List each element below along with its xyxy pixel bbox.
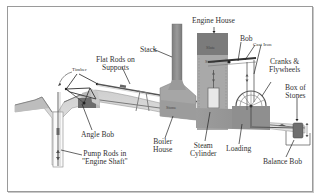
label-slate: Slate [206, 44, 215, 52]
label-stone-boiler-house: Stone [166, 104, 176, 112]
stack [168, 24, 186, 90]
label-balance-bob: Balance Bob [263, 158, 302, 166]
label-stack: Stack [140, 46, 157, 54]
label-boiler-line2: House [153, 146, 172, 154]
label-box-of-stones: Box of Stones [285, 84, 306, 100]
label-box-line2: Stones [285, 92, 306, 100]
label-stone-engine-house: Stone [205, 58, 215, 66]
engine-shaft [53, 92, 63, 167]
label-loading: Loading [226, 145, 251, 153]
label-cranks-flywheels: Cranks & Flywheels [269, 58, 300, 74]
diagram-illustration [0, 0, 319, 196]
label-flat-rods: Flat Rods on Supports [96, 56, 135, 72]
label-cranks-line2: Flywheels [269, 66, 300, 74]
label-steam-cylinder: Steam Cylinder [190, 142, 217, 158]
label-flat-rods-line2: Supports [96, 64, 135, 72]
label-steam-line2: Cylinder [190, 150, 217, 158]
label-angle-bob: Angle Bob [81, 131, 114, 139]
label-cast-iron: Cast Iron [253, 42, 271, 48]
beam-engine-diagram: Engine House Stack Flat Rods on Supports… [0, 0, 319, 196]
label-boiler-house: Boiler House [153, 138, 172, 154]
label-timber: Timber [72, 67, 87, 73]
label-pump-rods-line2: "Engine Shaft" [82, 158, 128, 166]
label-bob: Bob [240, 35, 253, 43]
label-engine-house: Engine House [192, 17, 235, 25]
label-pump-rods: Pump Rods in "Engine Shaft" [82, 150, 128, 166]
